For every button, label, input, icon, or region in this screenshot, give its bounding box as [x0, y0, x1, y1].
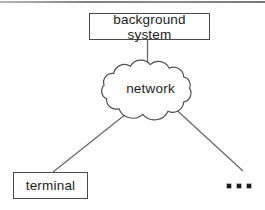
background-system-label: background system	[90, 12, 209, 42]
edge-network-terminal	[53, 106, 136, 172]
node-background-system: background system	[89, 13, 210, 40]
ellipsis-dot	[227, 184, 231, 188]
edge-network-ellipsis	[170, 104, 243, 171]
network-label: network	[104, 81, 197, 97]
ellipsis-dot	[237, 184, 241, 188]
ellipsis-dots-icon	[227, 184, 251, 188]
diagram-canvas: background system network terminal	[0, 0, 265, 210]
node-terminal: terminal	[13, 172, 88, 199]
ellipsis-dot	[247, 184, 251, 188]
terminal-label: terminal	[26, 178, 76, 193]
